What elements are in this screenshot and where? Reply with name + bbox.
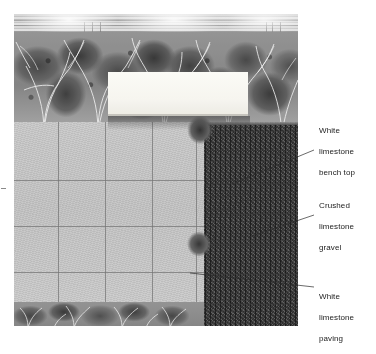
gravel-field bbox=[204, 122, 298, 326]
callout-gravel-line2: limestone bbox=[319, 222, 354, 233]
bench-top-slab bbox=[108, 72, 248, 116]
bench-shadow bbox=[108, 116, 250, 130]
shrub-clump-lower bbox=[182, 226, 216, 262]
courtyard-photo bbox=[14, 14, 298, 326]
callout-paving: White limestone paving bbox=[319, 281, 354, 354]
figure-root: White limestone bench top Crushed limest… bbox=[0, 0, 376, 354]
callout-gravel-line1: Crushed bbox=[319, 201, 354, 212]
gravel-texture-overlay bbox=[204, 122, 298, 326]
callout-paving-line3: paving bbox=[319, 334, 354, 345]
callout-paving-line2: limestone bbox=[319, 313, 354, 324]
callout-paving-line1: White bbox=[319, 292, 354, 303]
callout-bench-top-line3: bench top bbox=[319, 168, 355, 179]
callout-bench-top: White limestone bench top bbox=[319, 115, 355, 189]
callout-bench-top-line1: White bbox=[319, 126, 355, 137]
callout-gravel-line3: gravel bbox=[319, 243, 354, 254]
left-edge-tick bbox=[1, 188, 6, 189]
callout-bench-top-line2: limestone bbox=[319, 147, 355, 158]
callout-gravel: Crushed limestone gravel bbox=[319, 190, 354, 264]
bottom-branch-linework-icon bbox=[14, 298, 204, 326]
